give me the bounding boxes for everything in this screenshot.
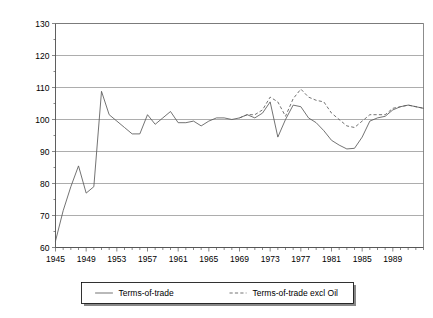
y-axis-tick-label: 120 xyxy=(35,51,49,61)
x-axis-tick-label: 1957 xyxy=(138,254,157,264)
x-axis-tick-label: 1977 xyxy=(291,254,310,264)
y-axis-tick-label: 130 xyxy=(35,19,49,29)
chart-canvas: 60708090100110120130 1945194919531957196… xyxy=(0,0,433,318)
plot-frame xyxy=(56,24,424,248)
x-axis-tick-label: 1953 xyxy=(107,254,126,264)
y-axis-ticks: 60708090100110120130 xyxy=(35,19,55,253)
y-axis-tick-label: 100 xyxy=(35,115,49,125)
chart-legend[interactable]: Terms-of-tradeTerms-of-trade excl Oil xyxy=(82,283,357,307)
y-axis-tick-label: 70 xyxy=(40,211,50,221)
terms-of-trade-chart: 60708090100110120130 1945194919531957196… xyxy=(0,0,433,318)
x-axis-ticks: 1945194919531957196119651969197319771981… xyxy=(46,248,423,264)
x-axis-tick-label: 1981 xyxy=(322,254,341,264)
y-axis-tick-label: 60 xyxy=(40,243,50,253)
x-axis-tick-label: 1949 xyxy=(77,254,96,264)
x-axis-tick-label: 1965 xyxy=(199,254,218,264)
x-axis-tick-label: 1945 xyxy=(46,254,65,264)
y-axis-tick-label: 80 xyxy=(40,179,50,189)
x-axis-tick-label: 1985 xyxy=(353,254,372,264)
data-series xyxy=(56,89,424,241)
legend-label-1: Terms-of-trade excl Oil xyxy=(253,288,339,298)
x-axis-tick-label: 1989 xyxy=(383,254,402,264)
x-axis-tick-label: 1969 xyxy=(230,254,249,264)
series-line-0 xyxy=(56,91,424,241)
y-axis-tick-label: 90 xyxy=(40,147,50,157)
gridlines xyxy=(56,24,424,248)
x-axis-tick-label: 1961 xyxy=(169,254,188,264)
legend-label-0: Terms-of-trade xyxy=(119,288,175,298)
x-axis-tick-label: 1973 xyxy=(261,254,280,264)
y-axis-tick-label: 110 xyxy=(36,83,50,93)
